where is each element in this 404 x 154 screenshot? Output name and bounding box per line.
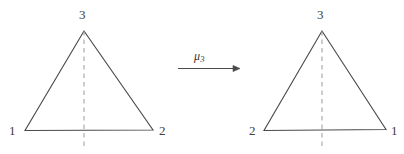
mapping-arrow-head [233,65,240,71]
image-bottom-left-label: 2 [249,124,256,137]
source-bottom-left-label: 1 [9,124,16,137]
image-triangle-outline [264,31,386,131]
image-apex-label: 3 [317,8,324,21]
mapping-arrow-group [178,65,240,71]
mapping-arrow-label-subscript: 3 [200,54,204,64]
source-bottom-right-label: 2 [159,124,166,137]
image-bottom-right-label: 1 [391,124,398,137]
source-triangle-group [25,31,153,148]
image-triangle-group [264,31,386,148]
triangle-reflection-figure: 3 1 2 3 2 1 μ3 [0,0,404,154]
source-apex-label: 3 [79,8,86,21]
source-triangle-outline [25,31,153,131]
mapping-arrow-label: μ3 [194,50,204,64]
diagram-canvas [0,0,404,154]
